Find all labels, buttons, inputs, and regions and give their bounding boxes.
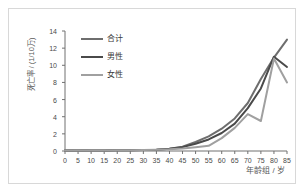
legend-line-swatch <box>81 38 103 41</box>
legend-item[interactable]: 女性 <box>81 71 123 79</box>
legend-label: 合计 <box>107 35 123 43</box>
chart-frame: 死亡率 / (1/10万) 年龄组 / 岁 02468101214 051015… <box>8 8 296 184</box>
legend-label: 男性 <box>107 53 123 61</box>
chart-figure: 死亡率 / (1/10万) 年龄组 / 岁 02468101214 051015… <box>0 0 304 192</box>
legend-label: 女性 <box>107 71 123 79</box>
legend-item[interactable]: 男性 <box>81 53 123 61</box>
legend-item[interactable]: 合计 <box>81 35 123 43</box>
plot-area <box>9 9 295 183</box>
legend-line-swatch <box>81 74 103 77</box>
legend-line-swatch <box>81 56 103 59</box>
